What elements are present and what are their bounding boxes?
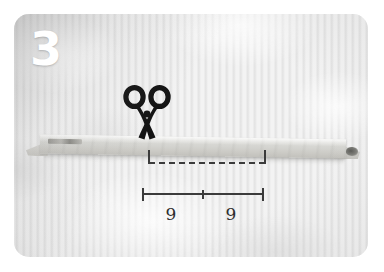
- step-number: 3: [30, 26, 61, 72]
- instruction-photo: 9 9 3: [14, 14, 368, 257]
- photo-vignette: [14, 14, 368, 257]
- photo-page: 9 9 3: [0, 0, 384, 272]
